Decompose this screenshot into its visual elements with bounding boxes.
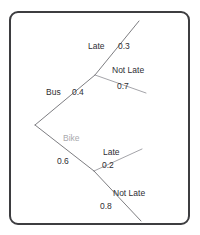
branch-label-bike-late: Late (103, 148, 120, 157)
branch-probability-bike-late: 0.2 (102, 161, 114, 170)
branch-probability-bus-late: 0.3 (118, 42, 130, 51)
branch-probability-bike: 0.6 (57, 157, 69, 166)
branch-label-bus: Bus (46, 88, 61, 97)
branch-label-bus-not-late: Not Late (112, 66, 144, 75)
tree-branch-lines (0, 0, 200, 235)
branch-label-bike-not-late: Not Late (113, 189, 145, 198)
branch-probability-bike-not-late: 0.8 (100, 202, 112, 211)
branch-label-bus-late: Late (88, 42, 105, 51)
diagram-canvas: Bus 0.4 Late 0.3 Not Late 0.7 Bike 0.6 L… (0, 0, 200, 235)
branch-probability-bus-not-late: 0.7 (117, 82, 129, 91)
branch-probability-bus: 0.4 (72, 88, 84, 97)
branch-line-bus (35, 75, 95, 125)
branch-label-bike: Bike (63, 134, 80, 143)
